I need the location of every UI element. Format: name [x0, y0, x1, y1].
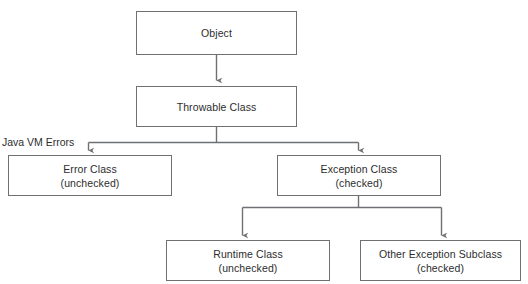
node-exception-class-label: Exception Class — [321, 162, 398, 176]
edge-label-java-vm-errors: Java VM Errors — [2, 136, 74, 149]
node-runtime-class-label: Runtime Class — [213, 247, 283, 261]
node-runtime-class[interactable]: Runtime Class (unchecked) — [166, 240, 330, 281]
node-throwable-class-label: Throwable Class — [177, 100, 257, 114]
node-object-label: Object — [201, 26, 232, 40]
node-error-class[interactable]: Error Class (unchecked) — [8, 155, 172, 196]
node-exception-class[interactable]: Exception Class (checked) — [277, 155, 441, 196]
node-other-exception-subclass-sublabel: (checked) — [417, 261, 464, 275]
node-other-exception-subclass-label: Other Exception Subclass — [379, 247, 502, 261]
node-error-class-sublabel: (unchecked) — [61, 176, 120, 190]
diagram-canvas: Java VM Errors Object Throwable Class Er… — [0, 0, 528, 284]
node-other-exception-subclass[interactable]: Other Exception Subclass (checked) — [360, 240, 521, 281]
node-object[interactable]: Object — [136, 11, 297, 55]
node-throwable-class[interactable]: Throwable Class — [136, 86, 297, 127]
node-error-class-label: Error Class — [63, 162, 117, 176]
node-runtime-class-sublabel: (unchecked) — [219, 261, 278, 275]
node-exception-class-sublabel: (checked) — [335, 176, 382, 190]
